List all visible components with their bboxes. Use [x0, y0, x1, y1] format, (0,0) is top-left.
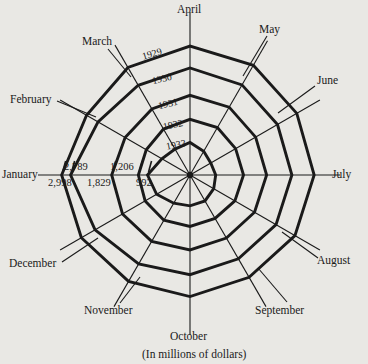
leader-line-may — [243, 36, 267, 76]
center-hub — [187, 172, 193, 178]
month-label-january: January — [2, 169, 38, 181]
month-label-december: December — [9, 258, 56, 270]
value-label-2998: 2,998 — [48, 178, 72, 189]
month-label-july: July — [332, 169, 351, 181]
leader-line-september — [258, 268, 287, 302]
month-label-february: February — [10, 94, 52, 106]
value-label-2789: 2,789 — [64, 162, 88, 173]
leader-lines — [57, 36, 318, 303]
month-label-september: September — [255, 305, 304, 317]
polar-chart-figure: April May June July August September Oct… — [0, 0, 368, 364]
spoke-september — [190, 175, 266, 307]
leader-line-august — [282, 232, 318, 258]
month-label-may: May — [259, 24, 280, 36]
month-label-august: August — [317, 255, 350, 267]
month-label-november: November — [84, 305, 133, 317]
value-label-1829: 1,829 — [87, 178, 111, 189]
value-label-992: 992 — [136, 178, 152, 189]
month-label-march: March — [82, 36, 112, 48]
spoke-december — [60, 175, 190, 250]
month-label-october: October — [170, 331, 207, 343]
month-label-april: April — [177, 4, 201, 16]
year-ring-1933 — [148, 142, 216, 205]
chart-caption: (In millions of dollars) — [142, 349, 246, 361]
value-label-1206: 1,206 — [110, 162, 134, 173]
month-label-june: June — [317, 75, 338, 87]
